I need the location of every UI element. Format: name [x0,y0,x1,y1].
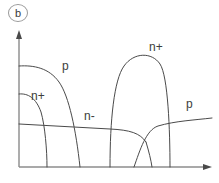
y-axis-arrowhead [16,30,22,39]
label-n-minus: n- [84,110,95,122]
concentration-axis [16,30,22,167]
label-p-left: p [62,60,69,72]
depth-axis [19,164,212,170]
label-n-plus-left: n+ [31,90,45,102]
label-n-plus-right: n+ [149,41,163,53]
doping-profile-figure: b p n+ n- n+ p [0,0,219,183]
curve-n-plus-left [19,94,47,167]
curve-p-right-tail [146,142,152,167]
label-p-right: p [186,98,193,110]
x-axis-arrowhead [203,164,212,170]
curve-p-left [19,66,80,167]
curve-n-minus-background [19,124,146,142]
